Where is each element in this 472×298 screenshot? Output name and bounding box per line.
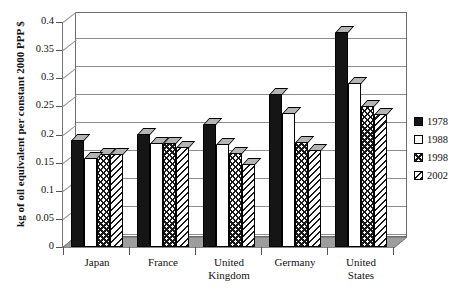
bar-top-face — [269, 88, 288, 95]
x-axis-tick — [63, 247, 64, 255]
bar-top-face — [282, 107, 301, 114]
bar-1978-france — [137, 134, 150, 247]
bar-1998-france — [163, 143, 176, 247]
x-axis-label-line: States — [321, 269, 401, 282]
bar-1988-france — [150, 143, 163, 247]
x-axis-tick — [327, 247, 328, 255]
bar-top-face — [137, 128, 156, 135]
chart-legend: 1978 1988 1998 2002 — [414, 112, 472, 184]
bar-top-face — [176, 141, 195, 148]
x-axis-label-line: United — [321, 256, 401, 269]
bar-top-face — [71, 134, 90, 141]
bar-top-face — [308, 144, 327, 151]
bar-1998-germany — [295, 142, 308, 247]
bar-top-face — [348, 77, 367, 84]
x-axis-tick — [195, 247, 196, 255]
chart-figure: kg of oil equivalent per constant 2000 P… — [0, 0, 472, 298]
bar-1978-germany — [269, 94, 282, 247]
x-axis-label: UnitedStates — [321, 256, 401, 282]
x-axis-tick — [261, 247, 262, 255]
bar-1978-united-kingdom — [203, 124, 216, 247]
bar-top-face — [361, 100, 380, 107]
bar-2002-united-kingdom — [242, 164, 255, 247]
x-axis-tick — [393, 247, 394, 255]
bar-top-face — [335, 26, 354, 33]
legend-label: 1978 — [427, 116, 448, 127]
bar-1988-united-kingdom — [216, 144, 229, 247]
bar-1988-japan — [84, 158, 97, 247]
legend-label: 1998 — [427, 152, 448, 163]
bar-2002-germany — [308, 150, 321, 247]
legend-item[interactable]: 2002 — [414, 166, 472, 184]
bar-top-face — [203, 118, 222, 125]
legend-label: 2002 — [427, 170, 448, 181]
bar-1998-japan — [97, 154, 110, 247]
x-axis-label-line: Kingdom — [189, 269, 269, 282]
bar-top-face — [242, 158, 261, 165]
bar-top-face — [216, 138, 235, 145]
bar-1988-germany — [282, 113, 295, 247]
bar-top-face — [374, 108, 393, 115]
bar-2002-japan — [110, 154, 123, 247]
legend-item[interactable]: 1998 — [414, 148, 472, 166]
bar-1998-united-states — [361, 106, 374, 247]
bar-top-face — [229, 147, 248, 154]
bar-1978-united-states — [335, 32, 348, 247]
legend-item[interactable]: 1988 — [414, 130, 472, 148]
bar-1978-japan — [71, 140, 84, 247]
legend-swatch-2002-icon — [414, 171, 423, 180]
legend-label: 1988 — [427, 134, 448, 145]
bar-1998-united-kingdom — [229, 153, 242, 247]
bar-1988-united-states — [348, 83, 361, 247]
legend-item[interactable]: 1978 — [414, 112, 472, 130]
x-axis-tick — [129, 247, 130, 255]
legend-swatch-1998-icon — [414, 153, 423, 162]
bar-series-layer — [0, 0, 472, 298]
legend-swatch-1978-icon — [414, 117, 423, 126]
bar-2002-france — [176, 147, 189, 247]
legend-swatch-1988-icon — [414, 135, 423, 144]
bar-top-face — [295, 136, 314, 143]
bar-2002-united-states — [374, 114, 387, 247]
